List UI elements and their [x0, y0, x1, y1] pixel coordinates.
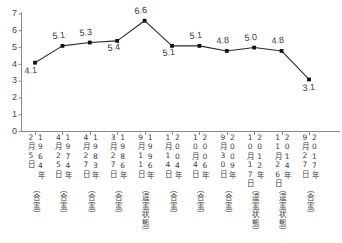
x-label-date: 2月5日 — [26, 133, 35, 169]
data-value-label: 5.0 — [244, 33, 257, 43]
x-label-ruling: （合憲） — [86, 185, 95, 219]
data-value-label: 5.4 — [107, 43, 120, 53]
data-value-label: 4.8 — [217, 36, 230, 46]
x-label-year: 2012年 — [255, 133, 264, 179]
x-label-ruling-wrap: （合憲） — [22, 185, 48, 219]
x-label-ruling-wrap: （合憲） — [49, 185, 75, 219]
x-label-ruling: （合憲） — [113, 185, 122, 219]
data-point-marker — [143, 19, 147, 23]
data-value-label: 5.3 — [80, 28, 93, 38]
data-point-marker — [252, 46, 256, 50]
x-label-year: 2017年 — [310, 133, 319, 179]
data-point-marker — [61, 44, 65, 48]
x-label-ruling: （合憲） — [31, 185, 40, 219]
x-axis-category-label: 1986年3月27日 — [104, 133, 130, 179]
x-label-date: 9月11日 — [136, 133, 145, 178]
x-label-ruling-wrap: （合憲） — [104, 185, 130, 219]
data-value-label: 4.1 — [24, 66, 37, 76]
data-point-marker — [88, 41, 92, 45]
x-axis-category-label: 2004年1月14日 — [159, 133, 185, 179]
x-axis-category-label: 2012年10月17日 — [241, 133, 267, 187]
data-value-label: 5.1 — [52, 31, 65, 41]
x-label-year: 2014年 — [282, 133, 291, 179]
x-label-date: 9月27日 — [300, 133, 309, 178]
x-label-ruling: （違憲状態） — [250, 185, 259, 235]
x-axis-category-labels: 1964年2月5日（合憲）1974年4月25日（合憲）1983年4月27日（合憲… — [0, 133, 342, 243]
x-label-date: 4月27日 — [81, 133, 90, 178]
data-point-marker — [225, 49, 229, 53]
x-axis-category-label: 2017年9月27日 — [296, 133, 322, 179]
data-point-marker — [280, 49, 284, 53]
data-value-label: 5.1 — [162, 48, 175, 58]
x-axis-category-label: 1983年4月27日 — [77, 133, 103, 179]
x-label-ruling-wrap: （違憲状態） — [132, 185, 158, 235]
x-label-ruling-wrap: （違憲状態） — [241, 185, 267, 235]
x-label-ruling: （合憲） — [58, 185, 67, 219]
x-axis-category-label: 2014年11月26日 — [269, 133, 295, 187]
x-label-year: 1974年 — [63, 133, 72, 179]
data-value-label: 3.1 — [302, 83, 315, 93]
data-value-label: 6.6 — [134, 6, 147, 16]
x-label-date: 1月14日 — [163, 133, 172, 178]
x-label-year: 1964年 — [36, 133, 45, 179]
x-label-year: 2004年 — [173, 133, 182, 179]
x-label-ruling-wrap: （合憲） — [186, 185, 212, 219]
x-label-ruling: （違憲状態） — [140, 185, 149, 235]
x-label-ruling: （合憲） — [305, 185, 314, 219]
x-label-ruling-wrap: （合憲） — [296, 185, 322, 219]
x-label-ruling-wrap: （違憲状態） — [269, 185, 295, 235]
x-label-ruling-wrap: （合憲） — [214, 185, 240, 219]
x-label-date: 10月4日 — [190, 133, 199, 178]
x-label-ruling: （違憲状態） — [277, 185, 286, 235]
x-axis-category-label: 1974年4月25日 — [49, 133, 75, 179]
x-label-year: 2006年 — [200, 133, 209, 179]
data-point-marker — [198, 44, 202, 48]
x-axis-category-label: 2006年10月4日 — [186, 133, 212, 179]
data-value-label: 4.8 — [271, 36, 284, 46]
x-label-date: 3月27日 — [108, 133, 117, 178]
x-axis-category-label: 1964年2月5日 — [22, 133, 48, 179]
x-axis-category-label: 2009年9月30日 — [214, 133, 240, 179]
x-label-date: 10月17日 — [245, 133, 254, 187]
x-label-year: 2009年 — [227, 133, 236, 179]
data-point-marker — [307, 78, 311, 82]
x-label-year: 1983年 — [90, 133, 99, 179]
x-label-ruling: （合憲） — [195, 185, 204, 219]
x-label-year: 1996年 — [145, 133, 154, 179]
x-label-year: 1986年 — [118, 133, 127, 179]
x-axis-category-label: 1996年9月11日 — [132, 133, 158, 179]
x-label-date: 9月30日 — [218, 133, 227, 178]
data-value-label: 5.1 — [189, 31, 202, 41]
x-label-ruling: （合憲） — [223, 185, 232, 219]
x-label-date: 11月26日 — [273, 133, 282, 187]
line-chart: 7 6 5 4 3 2 1 0 4.15.15.35.46.65.15.14.8… — [0, 0, 342, 243]
x-label-ruling-wrap: （合憲） — [159, 185, 185, 219]
x-label-ruling-wrap: （合憲） — [77, 185, 103, 219]
x-label-ruling: （合憲） — [168, 185, 177, 219]
x-label-date: 4月25日 — [53, 133, 62, 178]
